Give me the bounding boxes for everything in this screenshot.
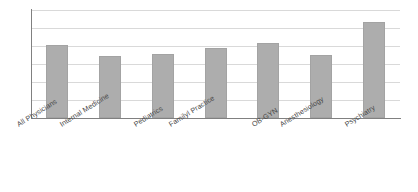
gridline (31, 10, 400, 11)
y-axis-line (31, 9, 32, 119)
bar[interactable] (363, 22, 385, 118)
gridline (31, 28, 400, 29)
bar[interactable] (205, 48, 227, 118)
gridline (31, 46, 400, 47)
bar-chart: All PhysiciansInternal MedicinePediatric… (0, 0, 418, 192)
bar[interactable] (99, 56, 121, 118)
